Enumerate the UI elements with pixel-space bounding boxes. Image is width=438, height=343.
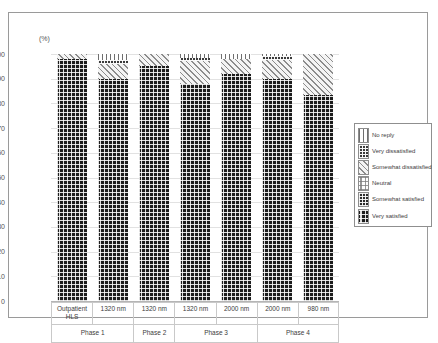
bar-segment: [221, 59, 251, 74]
bar-segment: [262, 60, 292, 79]
legend-item: Somewhat dissatisfied: [358, 159, 432, 175]
bar-segment: [180, 84, 210, 301]
legend-swatch: [358, 192, 369, 207]
legend-swatch: [358, 176, 369, 191]
phase-group-cell: Phase 2: [133, 324, 174, 342]
x-axis-label-cell: 1320 nm: [133, 302, 174, 324]
phase-group-cell: Phase 4: [257, 324, 339, 342]
bar-segment: [139, 66, 169, 301]
bar-stack: [57, 54, 87, 301]
phase-group-cell: Phase 1: [51, 324, 133, 342]
x-axis-label-cell: 2000 nm: [216, 302, 257, 324]
phase-group-label: Phase 1: [81, 329, 105, 337]
bar-segment: [180, 61, 210, 83]
legend-label: Somewhat satisfied: [372, 196, 424, 203]
x-axis-group-labels: Phase 1Phase 2Phase 3Phase 4: [51, 324, 339, 342]
bar-segment: [139, 54, 169, 66]
y-axis-tick-label: 100: [0, 51, 5, 58]
x-axis-label-text: 1320 nm: [101, 305, 126, 313]
legend-item: Neutral: [358, 176, 391, 192]
legend-item: Very dissatisfied: [358, 143, 415, 159]
bar-stack: [221, 54, 251, 301]
y-axis-tick-label: 70: [0, 125, 5, 132]
legend-item: No reply: [358, 127, 394, 143]
legend-item: Very satisfied: [358, 208, 408, 224]
legend-label: Very satisfied: [372, 213, 408, 220]
x-axis-category-labels: Outpatient HLS1320 nm1320 nm1320 nm2000 …: [51, 302, 339, 324]
y-axis-tick-label: 90: [0, 75, 5, 82]
x-axis-label-cell: Outpatient HLS: [51, 302, 92, 324]
x-axis-label-text: 980 nm: [308, 305, 330, 313]
y-axis-tick-label: 0: [0, 298, 5, 305]
bar-segment: [262, 56, 292, 60]
legend-swatch: [358, 144, 369, 159]
bar-segment: [98, 79, 128, 301]
bar-segment: [98, 64, 128, 79]
bar-segment: [303, 54, 333, 95]
phase-group-label: Phase 4: [286, 329, 310, 337]
phase-group-cell: Phase 3: [174, 324, 256, 342]
x-axis-label-text: 1320 nm: [183, 305, 208, 313]
chart-legend: No replyVery dissatisfiedSomewhat dissat…: [354, 123, 432, 227]
phase-group-label: Phase 2: [142, 329, 166, 337]
x-axis-label-cell: 2000 nm: [257, 302, 298, 324]
bar-segment: [221, 54, 251, 59]
bar-segment: [180, 54, 210, 58]
bar-segment: [221, 74, 251, 301]
bar-segment: [57, 54, 87, 59]
y-axis-tick-label: 60: [0, 149, 5, 156]
x-axis-label-text: 2000 nm: [265, 305, 290, 313]
y-axis-tick-label: 10: [0, 273, 5, 280]
bar-stack: [98, 54, 128, 301]
bar-segment: [303, 95, 333, 301]
bar-stack: [139, 54, 169, 301]
y-axis-tick-label: 50: [0, 174, 5, 181]
x-axis-label-cell: 1320 nm: [174, 302, 215, 324]
legend-swatch: [358, 128, 369, 143]
bar-segment: [180, 58, 210, 62]
bar-stack: [180, 54, 210, 301]
legend-label: Somewhat dissatisfied: [372, 164, 432, 171]
x-axis-label-text: 1320 nm: [142, 305, 167, 313]
bar-segment: [262, 79, 292, 301]
legend-swatch: [358, 209, 369, 224]
bar-stack: [262, 54, 292, 301]
legend-label: Neutral: [372, 180, 391, 187]
legend-item: Somewhat satisfied: [358, 192, 424, 208]
bar-segment: [57, 59, 87, 301]
legend-label: Very dissatisfied: [372, 148, 415, 155]
bar-segment: [262, 54, 292, 56]
y-axis-tick-label: 30: [0, 223, 5, 230]
bar-segment: [98, 60, 128, 64]
legend-swatch: [358, 160, 369, 175]
plot-area: 1009080706050403020100: [51, 54, 339, 301]
x-axis-label-text: 2000 nm: [224, 305, 249, 313]
x-axis-label-text: Outpatient HLS: [52, 305, 92, 321]
y-axis-unit-label: (%): [39, 35, 50, 42]
bar-stack: [303, 54, 333, 301]
x-axis-label-cell: 1320 nm: [92, 302, 133, 324]
y-axis-tick-label: 80: [0, 100, 5, 107]
x-axis-label-cell: 980 nm: [298, 302, 339, 324]
legend-label: No reply: [372, 132, 394, 139]
phase-group-label: Phase 3: [204, 329, 228, 337]
bar-segment: [98, 54, 128, 60]
chart-frame: (%) 1009080706050403020100 No replyVery …: [8, 12, 428, 318]
y-axis-tick-label: 20: [0, 248, 5, 255]
y-axis-tick-label: 40: [0, 199, 5, 206]
